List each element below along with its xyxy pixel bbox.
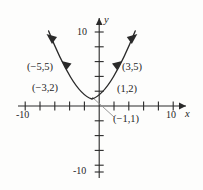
- y-tick-label-10: 10: [77, 27, 87, 37]
- y-axis: [95, 18, 104, 178]
- point-label-neg3-2: (−3,2): [32, 83, 58, 94]
- vertex-leader-line: [92, 97, 114, 117]
- y-tick-label-minus-10: -10: [73, 166, 86, 176]
- y-axis-label: y: [104, 15, 109, 26]
- curve-left-arrowhead: [47, 34, 58, 44]
- point-label-neg5-5: (−5,5): [27, 62, 53, 73]
- x-axis-label: x: [185, 109, 190, 120]
- x-tick-label-10: 10: [166, 110, 176, 120]
- point-label-vertex: (−1,1): [113, 114, 139, 125]
- point-marker-neg3-2: [112, 61, 122, 70]
- y-axis-arrowhead: [96, 18, 103, 25]
- x-tick-label-minus-10: -10: [16, 110, 29, 120]
- curve-right-arrowhead: [127, 34, 138, 44]
- point-label-1-2: (1,2): [117, 84, 137, 95]
- point-label-3-5: (3,5): [122, 62, 142, 73]
- point-marker-neg5-5: [62, 61, 72, 70]
- coordinate-plane-svg: [0, 0, 203, 190]
- graph-figure: (−5,5) (−3,2) (−1,1) (1,2) (3,5) -10 10 …: [0, 0, 203, 190]
